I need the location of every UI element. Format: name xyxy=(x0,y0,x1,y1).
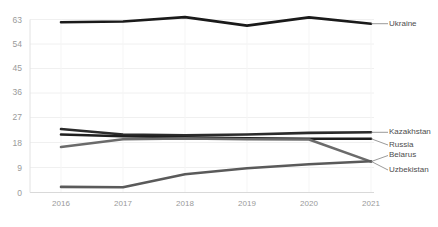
x-axis-tick-label: 2018 xyxy=(165,200,205,208)
series-label-russia: Russia xyxy=(389,141,413,149)
series-label-belarus: Belarus xyxy=(389,151,416,159)
x-axis-tick-label: 2016 xyxy=(41,200,81,208)
line-chart: 63 54 45 36 27 18 9 0 xyxy=(0,0,438,227)
series-line-kazakhstan xyxy=(61,129,371,135)
series-line-belarus xyxy=(61,138,371,161)
label-leader-lines xyxy=(371,24,388,170)
vertical-gridlines xyxy=(61,20,371,193)
plot-area xyxy=(0,0,438,227)
series-label-ukraine: Ukraine xyxy=(389,20,417,28)
series-label-kazakhstan: Kazakhstan xyxy=(389,128,431,136)
x-axis-tick-label: 2020 xyxy=(289,200,329,208)
series-line-ukraine xyxy=(61,17,371,26)
x-axis-tick-label: 2021 xyxy=(351,200,391,208)
series-label-uzbekistan: Uzbekistan xyxy=(389,166,429,174)
x-axis-tick-label: 2017 xyxy=(103,200,143,208)
series-line-uzbekistan xyxy=(61,161,371,187)
x-axis-tick-label: 2019 xyxy=(227,200,267,208)
